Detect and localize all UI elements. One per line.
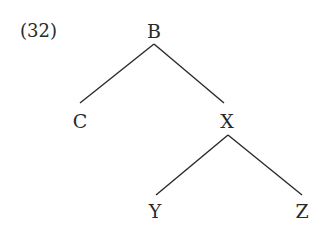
edge-x-z (228, 135, 302, 195)
edge-b-c (80, 44, 154, 103)
tree-edges (0, 0, 330, 231)
node-b: B (147, 22, 161, 41)
edge-b-x (154, 44, 224, 103)
node-y: Y (149, 202, 162, 221)
node-c: C (73, 112, 88, 131)
node-z: Z (295, 202, 308, 221)
node-x: X (220, 112, 234, 131)
edge-x-y (156, 135, 228, 195)
